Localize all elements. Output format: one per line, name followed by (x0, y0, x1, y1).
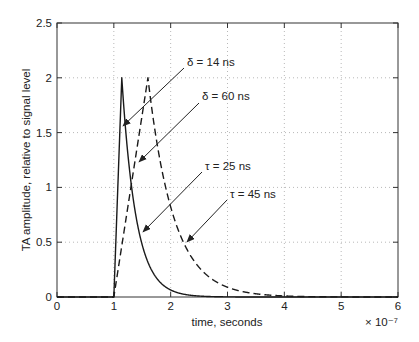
x-tick-label: 2 (167, 300, 173, 312)
y-tick-label: 1.5 (36, 127, 52, 139)
y-axis-label: TA amplitude, relative to signal level (20, 69, 32, 252)
y-tick-label: 0.5 (36, 236, 52, 248)
x-tick-label: 6 (395, 300, 401, 312)
annotation-arrow-3 (143, 172, 202, 232)
annotation-arrow-4 (187, 200, 227, 242)
x-axis-label: time, seconds (192, 316, 263, 328)
annotation-arrow-1 (123, 68, 184, 126)
y-tick-label: 2.5 (36, 17, 52, 29)
annotation-label-1: δ = 14 ns (187, 56, 235, 68)
x-tick-label: 0 (54, 300, 60, 312)
annotation-label-2: δ = 60 ns (202, 90, 250, 102)
x-tick-label: 4 (281, 300, 288, 312)
x-tick-label: 3 (224, 300, 230, 312)
figure: 012345600.511.522.5δ = 14 nsδ = 60 nsτ =… (0, 0, 419, 342)
x-tick-label: 5 (338, 300, 344, 312)
plot-canvas: 012345600.511.522.5δ = 14 nsδ = 60 nsτ =… (0, 0, 419, 342)
x-tick-label: 1 (111, 300, 117, 312)
annotation-label-3: τ = 25 ns (205, 160, 251, 172)
x-axis-exponent-label: × 10⁻⁷ (365, 315, 398, 329)
annotation-label-4: τ = 45 ns (230, 188, 276, 200)
y-tick-label: 1 (46, 181, 52, 193)
y-tick-label: 2 (46, 72, 52, 84)
y-tick-label: 0 (46, 291, 52, 303)
